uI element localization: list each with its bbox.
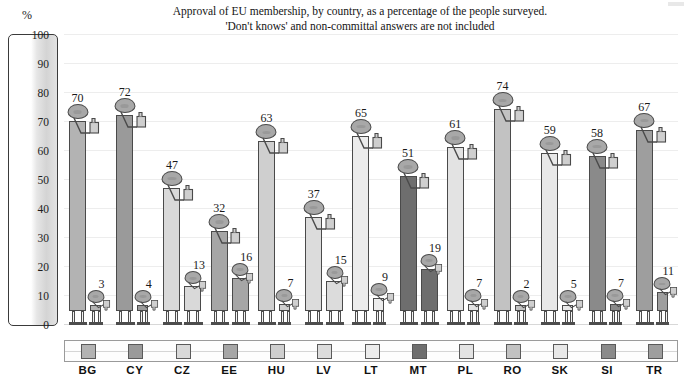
figure-foot-2	[219, 322, 229, 325]
approval-figure-ee: 32	[211, 34, 228, 324]
figure-foot-2	[378, 322, 386, 325]
disapproval-figure-hu: 7	[279, 34, 290, 324]
disapproval-figure-ro: 2	[515, 34, 526, 324]
legend-swatch-hu[interactable]	[270, 344, 285, 359]
thumbs-down-icon	[659, 286, 681, 302]
figure-foot-2	[125, 322, 135, 325]
bar-body	[116, 115, 133, 311]
figure-foot-2	[644, 322, 654, 325]
disapproval-figure-cy: 4	[137, 34, 148, 324]
figure-foot-2	[240, 322, 250, 325]
bar-value-label: 37	[308, 188, 320, 200]
country-group-hu[interactable]: 637	[253, 34, 300, 324]
legend-swatch-bg[interactable]	[81, 344, 96, 359]
bar-value-label: 70	[72, 92, 84, 104]
figure-foot-2	[662, 322, 670, 325]
disapproval-figure-mt: 19	[421, 34, 438, 324]
country-group-pl[interactable]: 617	[442, 34, 489, 324]
legend-swatch-lv[interactable]	[317, 344, 332, 359]
legend-strip[interactable]	[64, 340, 678, 362]
bar-value-label: 2	[524, 278, 530, 290]
legend-swatch-ee[interactable]	[223, 344, 238, 359]
country-group-tr[interactable]: 6711	[631, 34, 678, 324]
figure-foot-2	[361, 322, 371, 325]
figure-foot-2	[408, 322, 418, 325]
disapproval-figure-pl: 7	[468, 34, 479, 324]
figure-foot-2	[142, 322, 150, 325]
country-group-si[interactable]: 587	[584, 34, 631, 324]
legend-label-hu[interactable]: HU	[268, 364, 286, 376]
y-tick-10: 10	[9, 290, 49, 302]
legend-label-sk[interactable]: SK	[551, 364, 568, 376]
y-tick-100: 100	[9, 29, 49, 41]
legend-swatch-cz[interactable]	[176, 344, 191, 359]
legend-swatch-pl[interactable]	[459, 344, 474, 359]
figure-foot-2	[473, 322, 481, 325]
bar-value-label: 32	[213, 202, 225, 214]
legend-label-mt[interactable]: MT	[409, 364, 427, 376]
figure-foot-2	[95, 322, 103, 325]
legend-swatch-ro[interactable]	[506, 344, 521, 359]
chart-subtitle: 'Don't knows' and non-committal answers …	[100, 19, 620, 34]
legend-label-pl[interactable]: PL	[458, 364, 474, 376]
approval-figure-hu: 63	[258, 34, 275, 324]
disapproval-figure-si: 7	[610, 34, 621, 324]
approval-figure-tr: 67	[636, 34, 653, 324]
figure-foot-2	[550, 322, 560, 325]
disapproval-figure-lt: 9	[373, 34, 384, 324]
bar-value-label: 65	[355, 107, 367, 119]
approval-figure-cz: 47	[163, 34, 180, 324]
approval-figure-mt: 51	[400, 34, 417, 324]
approval-figure-pl: 61	[447, 34, 464, 324]
y-axis-unit-label: %	[22, 8, 32, 23]
country-group-ro[interactable]: 742	[489, 34, 536, 324]
y-tick-40: 40	[9, 203, 49, 215]
y-tick-90: 90	[9, 58, 49, 70]
y-tick-80: 80	[9, 87, 49, 99]
approval-figure-si: 58	[589, 34, 606, 324]
legend-label-bg[interactable]: BG	[78, 364, 96, 376]
approval-figure-ro: 74	[494, 34, 511, 324]
plot-area: 7037244713321663737156595119617742595587…	[64, 34, 678, 324]
country-group-bg[interactable]: 703	[64, 34, 111, 324]
legend-swatch-lt[interactable]	[365, 344, 380, 359]
bar-value-label: 67	[638, 101, 650, 113]
y-tick-30: 30	[9, 232, 49, 244]
legend-label-si[interactable]: SI	[601, 364, 613, 376]
country-group-mt[interactable]: 5119	[395, 34, 442, 324]
bar-body	[541, 153, 558, 311]
figure-foot-2	[455, 322, 465, 325]
legend-label-cz[interactable]: CZ	[174, 364, 190, 376]
bar-value-label: 4	[146, 278, 152, 290]
bar-value-label: 7	[618, 277, 624, 289]
country-group-lv[interactable]: 3715	[300, 34, 347, 324]
disapproval-figure-lv: 15	[326, 34, 343, 324]
legend-swatch-mt[interactable]	[412, 344, 427, 359]
country-group-cy[interactable]: 724	[111, 34, 158, 324]
bar-value-label: 47	[166, 159, 178, 171]
top-right-artifact	[668, 2, 684, 6]
y-tick-60: 60	[9, 145, 49, 157]
country-group-ee[interactable]: 3216	[206, 34, 253, 324]
legend-label-ro[interactable]: RO	[504, 364, 522, 376]
figure-foot-2	[78, 322, 88, 325]
bar-value-label: 63	[260, 112, 272, 124]
legend-label-tr[interactable]: TR	[646, 364, 662, 376]
legend-swatch-si[interactable]	[601, 344, 616, 359]
country-group-sk[interactable]: 595	[536, 34, 583, 324]
country-group-lt[interactable]: 659	[347, 34, 394, 324]
legend-swatch-cy[interactable]	[128, 344, 143, 359]
bar-value-label: 61	[449, 118, 461, 130]
legend-label-lt[interactable]: LT	[364, 364, 378, 376]
legend-swatch-tr[interactable]	[648, 344, 663, 359]
country-group-cz[interactable]: 4713	[158, 34, 205, 324]
legend-label-cy[interactable]: CY	[126, 364, 143, 376]
legend-label-ee[interactable]: EE	[221, 364, 237, 376]
figure-foot-2	[614, 322, 622, 325]
chart-title-line-1: Approval of EU membership, by country, a…	[100, 4, 620, 19]
figure-foot-2	[172, 322, 182, 325]
legend-label-lv[interactable]: LV	[316, 364, 331, 376]
legend-swatch-sk[interactable]	[553, 344, 568, 359]
chart-canvas: % Approval of EU membership, by country,…	[0, 0, 686, 380]
figure-foot-2	[429, 322, 439, 325]
